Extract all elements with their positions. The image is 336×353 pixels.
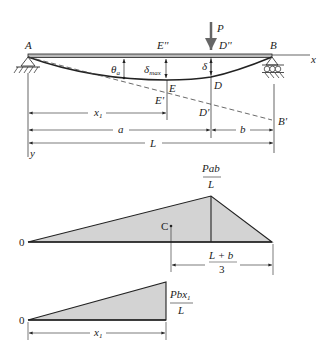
moment-peak-denominator: L xyxy=(207,178,214,190)
label-d-prime: D' xyxy=(198,106,210,118)
dimension-a: a xyxy=(29,123,210,135)
label-b: B xyxy=(270,39,277,51)
partial-origin-label: 0 xyxy=(19,314,25,326)
label-e: E xyxy=(168,82,176,94)
dimension-l: L xyxy=(29,137,273,149)
label-e-prime: E' xyxy=(154,94,165,106)
partial-peak-denominator: L xyxy=(177,304,184,316)
label-p: P xyxy=(216,22,224,34)
svg-text:L: L xyxy=(149,137,156,149)
dimension-x1: x1 xyxy=(29,106,166,120)
label-theta-a: θa xyxy=(111,63,120,77)
label-delta-max: δmax xyxy=(144,63,162,77)
label-x-axis: x xyxy=(310,53,316,65)
label-y-axis: y xyxy=(29,147,35,159)
dimension-b: b xyxy=(212,123,273,135)
label-d: D xyxy=(213,79,222,91)
svg-text:a: a xyxy=(118,123,124,135)
label-a: A xyxy=(24,39,32,51)
svg-text:3: 3 xyxy=(219,263,225,275)
svg-text:x1: x1 xyxy=(93,106,102,120)
svg-text:b: b xyxy=(240,123,246,135)
label-e-double-prime: E'' xyxy=(156,39,169,51)
moment-peak-numerator: Pab xyxy=(201,162,220,174)
partial-moment-diagram xyxy=(28,282,166,320)
moment-origin-label: 0 xyxy=(19,236,25,248)
label-delta: δ xyxy=(202,60,208,72)
label-b-prime: B' xyxy=(278,115,288,127)
tangent-line xyxy=(28,57,272,120)
svg-text:x1: x1 xyxy=(93,326,102,340)
label-d-double-prime: D'' xyxy=(218,39,232,51)
svg-text:L + b: L + b xyxy=(208,249,234,261)
dimension-partial-x1: x1 xyxy=(29,326,165,340)
centroid-label: C xyxy=(161,220,168,232)
moment-diagram xyxy=(28,196,272,242)
dimension-centroid: L + b 3 xyxy=(172,249,272,275)
beam-deflection-diagram: A E'' P D'' B x θa δmax δ E D E' D' B' x… xyxy=(0,0,336,353)
partial-peak-numerator: Pbx1 xyxy=(169,288,191,302)
